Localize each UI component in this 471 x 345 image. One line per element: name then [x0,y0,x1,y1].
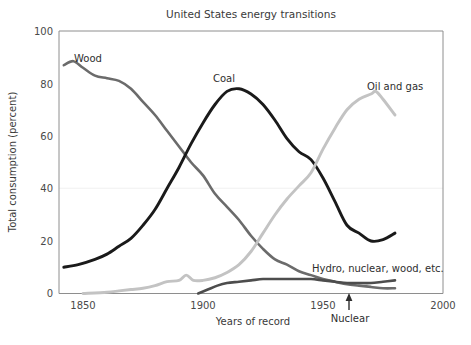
x-tick-2000: 2000 [430,300,455,311]
series-label-oil-and-gas: Oil and gas [367,81,423,92]
y-axis-title: Total consumption (percent) [7,92,18,234]
nuclear-arrow-head [346,293,353,301]
series-line-wood [64,61,395,288]
series-group [64,61,395,293]
x-tick-1900: 1900 [190,300,215,311]
y-tick-60: 60 [40,131,53,142]
chart-title: United States energy transitions [166,8,336,20]
series-label-coal: Coal [213,73,235,84]
x-tick-1850: 1850 [70,300,95,311]
y-tick-0: 0 [47,288,53,299]
nuclear-annotation-label: Nuclear [331,313,370,324]
energy-transitions-line-chart: United States energy transitions 100 80 … [0,0,471,345]
plot-frame [59,31,443,294]
x-tick-1950: 1950 [310,300,335,311]
series-line-coal [64,89,395,268]
y-tick-40: 40 [40,183,53,194]
series-label-wood: Wood [74,53,102,64]
y-tick-100: 100 [34,26,53,37]
x-axis-title: Years of record [215,316,290,327]
nuclear-annotation: Nuclear [331,293,370,324]
series-label-hydro-nuclear-wood: Hydro, nuclear, wood, etc. [312,263,444,274]
chart-figure: United States energy transitions 100 80 … [0,0,471,345]
y-tick-80: 80 [40,79,53,90]
y-tick-20: 20 [40,236,53,247]
